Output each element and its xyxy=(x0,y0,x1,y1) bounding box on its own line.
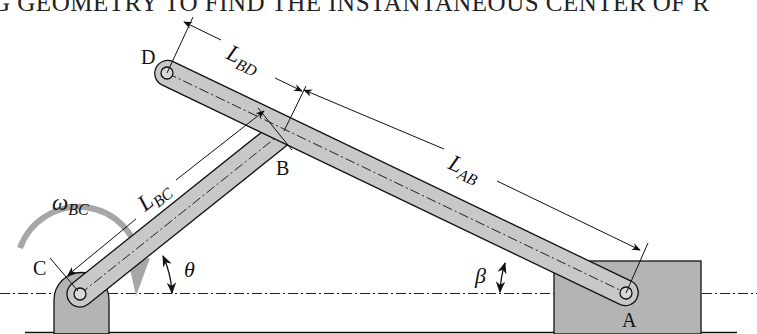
label-lbd: LBD xyxy=(221,39,265,79)
pin-c xyxy=(74,288,86,300)
label-omega-bc: ωBC xyxy=(52,190,89,218)
beta-arc-icon xyxy=(500,263,505,292)
label-theta: θ xyxy=(184,257,195,282)
svg-text:LBD: LBD xyxy=(221,39,265,79)
label-lab: LAB xyxy=(443,149,485,189)
dim-lbd-left xyxy=(184,22,221,40)
svg-text:LAB: LAB xyxy=(443,149,485,189)
label-d: D xyxy=(141,46,155,68)
label-beta: β xyxy=(474,263,486,288)
label-b: B xyxy=(276,157,289,179)
diagram-stage: G GEOMETRY TO FIND THE INSTANTANEOUS CEN… xyxy=(0,0,757,334)
dim-lbd-right xyxy=(275,78,302,91)
label-c: C xyxy=(33,257,46,279)
linkage-diagram: D B C A LBD LAB LBC ωBC θ β xyxy=(0,0,757,334)
label-a: A xyxy=(622,309,637,331)
theta-arc-icon xyxy=(163,256,172,293)
